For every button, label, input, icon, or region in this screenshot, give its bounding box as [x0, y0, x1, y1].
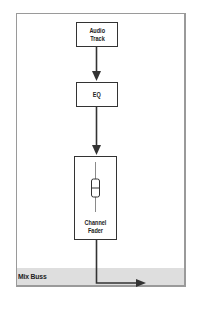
eq-label: EQ	[93, 91, 101, 99]
audio-track-label-1: Audio	[89, 27, 105, 35]
audio-track-node: Audio Track	[76, 22, 118, 47]
audio-track-label-2: Track	[90, 35, 104, 43]
arrowhead-down-icon	[92, 145, 101, 155]
arrowhead-down-icon	[92, 71, 101, 81]
arrowhead-right-icon	[136, 279, 146, 287]
channel-fader-node: Channel Fader	[74, 156, 117, 240]
arrow-fader-to-mixbuss	[97, 240, 139, 283]
eq-node: EQ	[76, 82, 118, 107]
channel-fader-label: Channel Fader	[78, 219, 113, 234]
channel-fader-label-2: Fader	[78, 227, 113, 235]
channel-fader-label-1: Channel	[78, 219, 113, 227]
